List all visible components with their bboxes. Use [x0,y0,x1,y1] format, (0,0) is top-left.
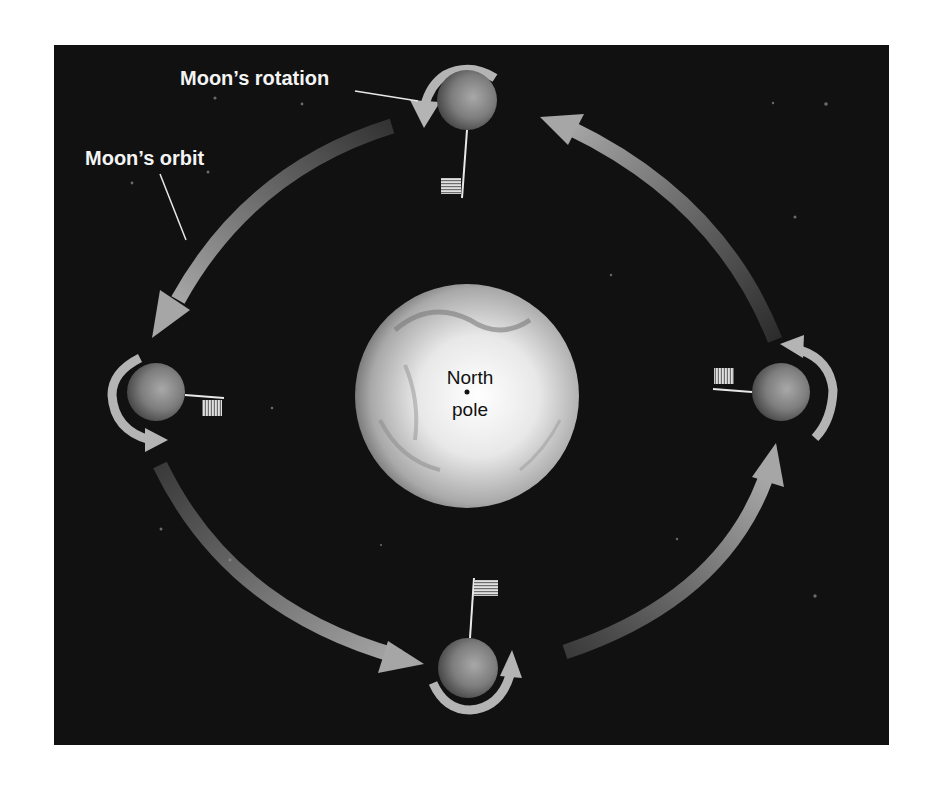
moon-orbit-diagram: North pole Moon’s rotation M [0,0,934,790]
earth: North pole [355,284,579,508]
earth-label-pole: pole [452,399,488,420]
earth-label-north: North [447,367,493,388]
flag-icon [202,400,222,416]
flag-icon [441,178,461,194]
label-moon-orbit: Moon’s orbit [85,147,205,169]
label-moon-rotation: Moon’s rotation [180,67,329,89]
flag-icon [714,368,734,384]
flag-icon [474,580,498,596]
north-pole-dot [465,390,470,395]
